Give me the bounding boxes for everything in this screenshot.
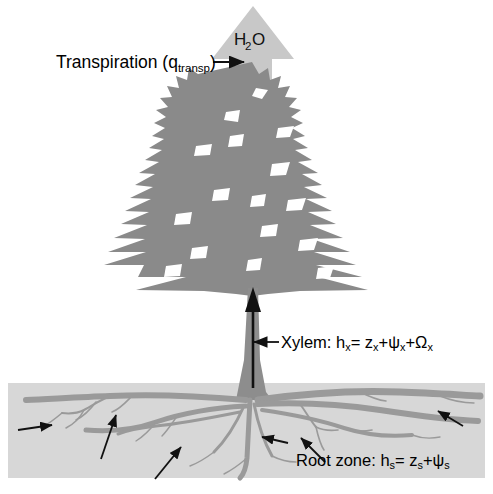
transpiration-label-subscript: transp	[178, 62, 210, 74]
transpiration-label-close: )	[210, 52, 216, 72]
xylem-label-prefix: Xylem: h	[281, 333, 345, 351]
root-zone-label-prefix: Root zone: h	[296, 451, 390, 469]
tree-canopy	[104, 62, 368, 296]
transpiration-label-main: Transpiration (q	[56, 52, 178, 72]
xylem-label: Xylem: hx= zx+ψx+Ωx	[281, 334, 433, 353]
spac-diagram: H 2 O	[0, 0, 493, 494]
root-zone-label-plus-psi: +ψ	[423, 451, 444, 469]
xylem-label-equals: = z	[351, 333, 373, 351]
root-zone-label: Root zone: hs= zs+ψs	[296, 452, 450, 471]
h2o-o: O	[252, 30, 265, 49]
transpiration-label: Transpiration (qtransp)	[56, 54, 216, 74]
xylem-label-plus-psi: +ψ	[379, 333, 400, 351]
root-zone-label-sub-3: s	[444, 459, 449, 471]
root-zone-label-equals: = z	[395, 451, 417, 469]
h2o-subscript-2: 2	[245, 40, 251, 52]
xylem-label-sub-4: x	[427, 341, 432, 353]
xylem-label-plus-omega: +Ω	[405, 333, 427, 351]
